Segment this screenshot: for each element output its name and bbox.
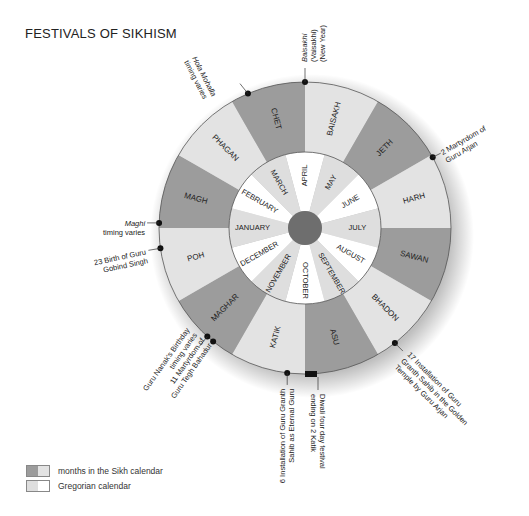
diwali-marker (305, 371, 317, 377)
gregorian-month-label: APRIL (300, 165, 309, 187)
gregorian-month-label: OCTOBER (301, 262, 310, 300)
festival-label-hola: Hola Mohallatiming varies (182, 55, 218, 102)
swatch-gregorian-icon (26, 480, 50, 492)
gregorian-months-ring: APRILMAYJUNEJULYAUGUSTSEPTEMBEROCTOBERNO… (229, 152, 381, 304)
gregorian-month-label: JULY (349, 223, 367, 232)
swatch-sikh-icon (26, 465, 50, 477)
festival-label-granth: 6 Installation of Guru GranthSahib as Et… (278, 389, 296, 483)
legend-label: months in the Sikh calendar (58, 466, 163, 476)
festival-label-golden: 17 Installation of GuruGranth Sahib in t… (393, 350, 476, 433)
festival-label-diwali: Diwali four day festivalending on 2 Kati… (309, 394, 327, 469)
gregorian-month-label: JANUARY (235, 223, 270, 232)
festival-label-baisakhi: Baisakhi(Vaisakhi)(New Year) (300, 24, 327, 62)
legend: months in the Sikh calendar Gregorian ca… (26, 464, 163, 494)
legend-item-gregorian: Gregorian calendar (26, 479, 163, 493)
festival-label-arjan: 2 Martyrdom ofGuru Arjan (439, 123, 492, 164)
martyrdom-tegh-marker (210, 338, 216, 344)
legend-item-sikh: months in the Sikh calendar (26, 464, 163, 478)
center-dot (288, 211, 322, 245)
festival-label-gobind: 23 Birth of GuruGobind Singh (93, 247, 149, 276)
festival-wheel: BAISAKHJETHHARHSAWANBHADONASUKATIKMAGHAR… (0, 0, 529, 516)
festival-label-maghi: Maghitiming varies (103, 219, 145, 237)
legend-label: Gregorian calendar (58, 481, 131, 491)
